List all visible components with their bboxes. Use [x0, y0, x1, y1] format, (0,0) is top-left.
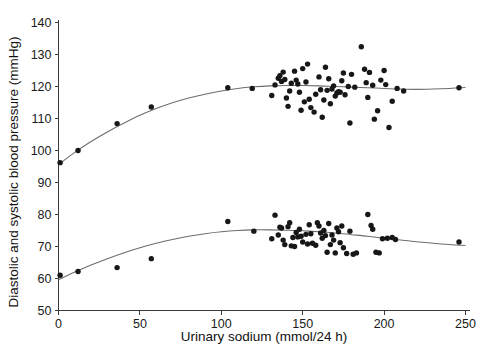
- data-point: [308, 231, 313, 236]
- data-point: [394, 86, 399, 91]
- data-point: [269, 93, 274, 98]
- data-point: [370, 83, 375, 88]
- data-point: [307, 97, 312, 102]
- data-point: [456, 85, 461, 90]
- data-point: [300, 239, 305, 244]
- data-point: [337, 240, 342, 245]
- data-point: [354, 250, 359, 255]
- data-point: [300, 66, 305, 71]
- data-point: [349, 72, 354, 77]
- chart-figure: 5060708090100110120130140 05010015020025…: [0, 0, 481, 350]
- data-point: [57, 273, 62, 278]
- data-point: [393, 237, 398, 242]
- scatter-plot-canvas: 5060708090100110120130140 05010015020025…: [0, 0, 481, 350]
- data-point: [331, 83, 336, 88]
- data-point: [344, 251, 349, 256]
- data-point: [339, 223, 344, 228]
- data-point: [321, 97, 326, 102]
- data-point: [272, 82, 277, 87]
- data-point: [297, 90, 302, 95]
- data-point: [336, 229, 341, 234]
- data-point: [323, 233, 328, 238]
- data-point: [57, 160, 62, 165]
- data-point: [380, 236, 385, 241]
- y-tick-label: 140: [31, 16, 52, 30]
- data-point: [276, 232, 281, 237]
- data-point: [297, 227, 302, 232]
- data-point: [324, 88, 329, 93]
- y-tick-label: 60: [38, 272, 52, 286]
- x-tick-label: 250: [455, 317, 476, 331]
- data-point: [289, 81, 294, 86]
- data-point: [390, 99, 395, 104]
- data-point: [307, 222, 312, 227]
- data-point: [269, 236, 274, 241]
- data-point: [362, 67, 367, 72]
- data-point: [298, 234, 303, 239]
- y-tick-label: 70: [38, 240, 52, 254]
- data-point: [378, 77, 383, 82]
- data-point: [292, 68, 297, 73]
- data-point: [381, 68, 386, 73]
- data-point: [149, 256, 154, 261]
- y-tick-label: 100: [31, 144, 52, 158]
- data-point: [326, 221, 331, 226]
- data-point: [341, 70, 346, 75]
- data-point: [347, 228, 352, 233]
- data-point: [377, 250, 382, 255]
- data-point: [365, 212, 370, 217]
- data-point: [303, 79, 308, 84]
- data-point: [370, 227, 375, 232]
- data-point: [114, 265, 119, 270]
- data-point: [321, 228, 326, 233]
- y-axis-title: Diastolic and systolic blood pressure (m…: [6, 37, 21, 308]
- data-point: [385, 235, 390, 240]
- data-point: [323, 65, 328, 70]
- data-point: [341, 245, 346, 250]
- y-tick-label: 80: [38, 208, 52, 222]
- data-point: [305, 61, 310, 66]
- y-tick-label: 130: [31, 48, 52, 62]
- data-point: [359, 44, 364, 49]
- data-point: [311, 109, 316, 114]
- data-point: [225, 85, 230, 90]
- x-tick-label: 50: [133, 317, 147, 331]
- data-point: [250, 86, 255, 91]
- data-point: [303, 232, 308, 237]
- data-point: [347, 120, 352, 125]
- data-point: [251, 228, 256, 233]
- data-point: [365, 95, 370, 100]
- data-point: [375, 108, 380, 113]
- data-point: [318, 87, 323, 92]
- data-point: [272, 212, 277, 217]
- data-point: [282, 242, 287, 247]
- data-point: [328, 242, 333, 247]
- y-tick-label: 110: [32, 112, 52, 126]
- data-point: [298, 107, 303, 112]
- data-point: [287, 220, 292, 225]
- data-point: [290, 235, 295, 240]
- data-point: [282, 77, 287, 82]
- data-point: [280, 69, 285, 74]
- data-point: [331, 237, 336, 242]
- data-point: [329, 232, 334, 237]
- data-point: [302, 99, 307, 104]
- data-point: [386, 125, 391, 130]
- data-point: [401, 88, 406, 93]
- data-point: [339, 78, 344, 83]
- plot-background: [0, 0, 481, 350]
- y-tick-label: 90: [38, 176, 52, 190]
- data-point: [333, 250, 338, 255]
- data-point: [367, 70, 372, 75]
- data-point: [383, 82, 388, 87]
- data-point: [225, 219, 230, 224]
- data-point: [363, 80, 368, 85]
- data-point: [337, 90, 342, 95]
- data-point: [75, 148, 80, 153]
- data-point: [287, 88, 292, 93]
- data-point: [75, 269, 80, 274]
- data-point: [149, 104, 154, 109]
- data-point: [313, 91, 318, 96]
- data-point: [308, 105, 313, 110]
- data-point: [346, 84, 351, 89]
